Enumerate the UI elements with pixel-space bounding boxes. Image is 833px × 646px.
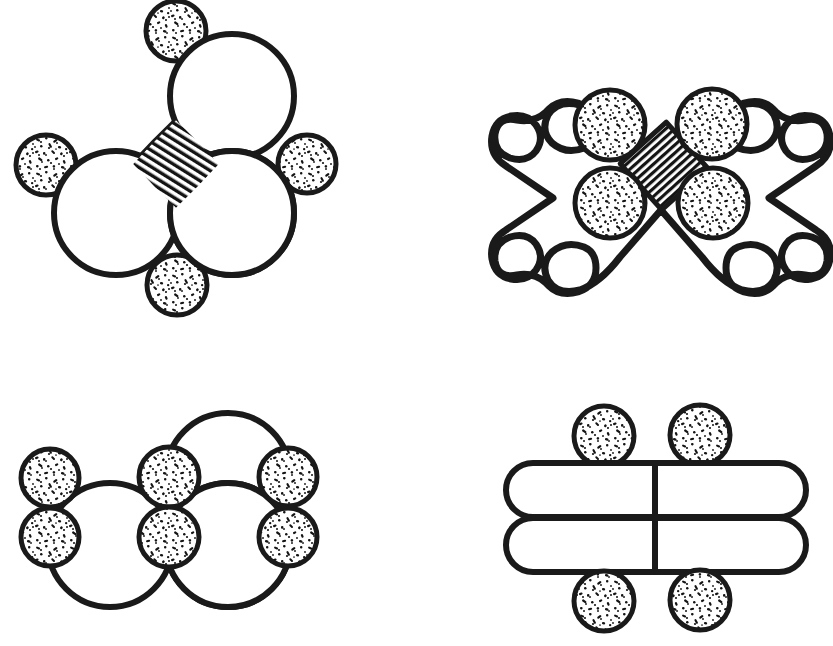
small-circle-group-bottom-right-top xyxy=(574,405,730,466)
stipple-circle-bottom-right xyxy=(678,168,748,238)
stipple-circle-top-right xyxy=(670,405,730,465)
stipple-circle-bottom-right xyxy=(670,570,730,630)
panel-top-left xyxy=(16,1,336,315)
stipple-circle-right-lower xyxy=(259,508,317,566)
stipple-circle-centre-upper xyxy=(139,447,199,507)
schematic-diagram xyxy=(0,0,833,646)
panel-bottom-right xyxy=(506,405,806,631)
stipple-circle-bottom-left xyxy=(574,571,634,631)
small-circle-group-bottom-right-bottom xyxy=(574,570,730,631)
stipple-circle-top-right xyxy=(677,89,747,159)
stipple-circle-left-upper xyxy=(21,449,79,507)
stipple-circle-right-upper xyxy=(259,448,317,506)
stipple-circle-centre-lower xyxy=(139,507,199,567)
panel-top-right xyxy=(492,89,831,294)
stipple-circle-left-lower xyxy=(21,508,79,566)
figure-canvas xyxy=(0,0,833,646)
panel-bottom-left xyxy=(21,413,317,607)
stipple-circle-top-left xyxy=(574,406,634,466)
stipple-circle-top-left xyxy=(575,90,645,160)
stipple-circle-bottom-left xyxy=(575,168,645,238)
